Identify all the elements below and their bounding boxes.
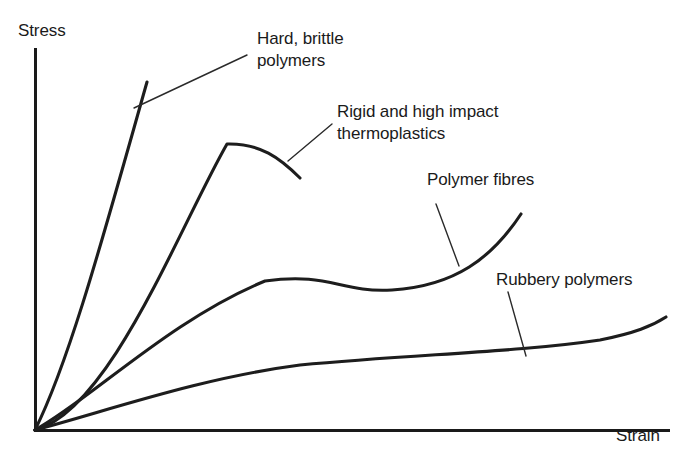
leader-rigid-thermoplastics [288,124,332,161]
curve-label-polymer-fibres: Polymer fibres [427,169,534,191]
x-axis-label: Strain [616,425,660,447]
curve-label-hard-brittle-polymers: Hard, brittle polymers [257,28,344,72]
stress-strain-figure [0,0,689,471]
curve-polymer-fibres [35,214,521,430]
leader-hard-brittle-polymers [134,55,247,108]
leader-polymer-fibres [436,204,459,266]
y-axis-label: Stress [18,20,66,42]
curve-rigid-thermoplastics [35,144,300,430]
curve-hard-brittle-polymers [35,82,147,430]
curve-label-rigid-thermoplastics: Rigid and high impact thermoplastics [337,101,498,145]
leader-rubbery-polymers [508,292,526,356]
curve-label-rubbery-polymers: Rubbery polymers [496,269,632,291]
